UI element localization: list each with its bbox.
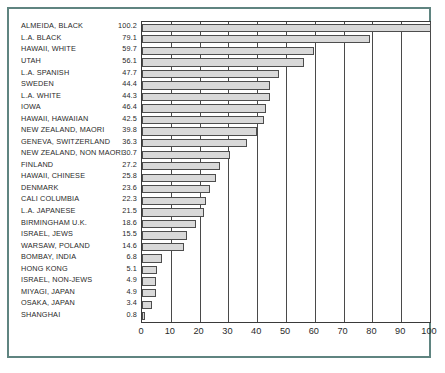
bar [142,24,431,32]
bar [142,301,152,309]
gridline-100 [430,22,431,322]
x-tick-label-30: 30 [214,326,240,337]
x-tick-label-50: 50 [272,326,298,337]
bar [142,93,270,101]
x-tick-label-90: 90 [387,326,413,337]
bar [142,185,210,193]
value-label: 6.8 [105,253,137,261]
bar [142,162,220,170]
bar [142,47,314,55]
bar [142,289,156,297]
value-label: 25.8 [105,172,137,180]
value-label: 30.7 [105,149,137,157]
value-label: 36.3 [105,138,137,146]
bar [142,174,216,182]
bar [142,58,304,66]
value-label: 46.4 [105,103,137,111]
bar [142,197,206,205]
bar [142,139,247,147]
value-label: 4.9 [105,276,137,284]
value-label: 56.1 [105,57,137,65]
bars-layer [142,22,430,322]
value-label: 44.3 [105,92,137,100]
bar [142,104,266,112]
value-label: 47.7 [105,69,137,77]
bar [142,277,156,285]
value-label: 44.4 [105,80,137,88]
value-label: 100.2 [105,22,137,30]
bar [142,127,257,135]
bar [142,208,204,216]
bar [142,220,196,228]
bar [142,243,184,251]
value-label: 18.6 [105,219,137,227]
value-label: 42.5 [105,115,137,123]
x-tick-label-100: 100 [416,326,442,337]
x-tick-label-60: 60 [301,326,327,337]
value-label: 39.8 [105,126,137,134]
value-label: 4.9 [105,288,137,296]
x-tick-label-80: 80 [358,326,384,337]
bar [142,35,370,43]
value-label: 27.2 [105,161,137,169]
figure-frame: ALMEIDA, BLACK100.2L.A. BLACK79.1HAWAII,… [7,7,431,358]
bar [142,266,157,274]
value-label: 0.8 [105,311,137,319]
bar [142,81,270,89]
x-tick-label-10: 10 [157,326,183,337]
bar [142,70,279,78]
x-tick-label-40: 40 [243,326,269,337]
value-label: 14.6 [105,242,137,250]
x-tick-label-0: 0 [128,326,154,337]
value-label: 23.6 [105,184,137,192]
x-tick-label-70: 70 [330,326,356,337]
value-label: 79.1 [105,34,137,42]
bar [142,116,264,124]
bar-chart: ALMEIDA, BLACK100.2L.A. BLACK79.1HAWAII,… [9,9,433,360]
x-axis-tick-labels: 0102030405060708090100 [141,326,429,340]
value-label: 59.7 [105,45,137,53]
bar [142,231,187,239]
value-label: 5.1 [105,265,137,273]
value-label: 3.4 [105,299,137,307]
value-label: 22.3 [105,195,137,203]
value-label: 21.5 [105,207,137,215]
value-label: 15.5 [105,230,137,238]
x-tick-label-20: 20 [186,326,212,337]
bar [142,254,162,262]
bar [142,151,230,159]
bar [142,312,145,320]
plot-area [141,21,431,323]
